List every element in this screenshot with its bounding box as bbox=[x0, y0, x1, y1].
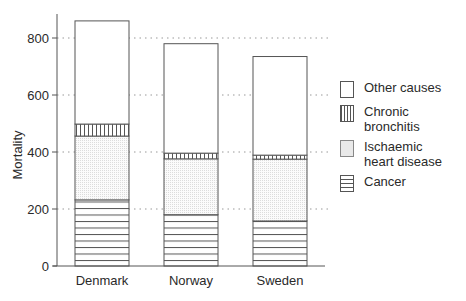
legend: Other causesChronic bronchitisIschaemic … bbox=[340, 80, 466, 198]
bar-sweden bbox=[253, 57, 307, 266]
segment-other-causes bbox=[164, 44, 218, 153]
segment-chronic-bronchitis bbox=[164, 153, 218, 159]
legend-item-ihd: Ischaemic heart disease bbox=[340, 139, 466, 169]
legend-swatch-other-icon bbox=[340, 81, 354, 98]
y-tick-label-800: 800 bbox=[27, 31, 49, 46]
segment-cancer bbox=[253, 221, 307, 266]
legend-item-cancer: Cancer bbox=[340, 174, 466, 192]
legend-item-other: Other causes bbox=[340, 80, 466, 98]
segment-chronic-bronchitis bbox=[253, 155, 307, 159]
bars bbox=[75, 21, 307, 266]
legend-label: Cancer bbox=[364, 174, 406, 189]
segment-ischaemic-heart-disease bbox=[164, 159, 218, 215]
segment-ischaemic-heart-disease bbox=[75, 136, 129, 200]
y-tick-label-0: 0 bbox=[42, 259, 49, 274]
segment-cancer bbox=[75, 200, 129, 266]
y-tick-label-200: 200 bbox=[27, 202, 49, 217]
bar-denmark bbox=[75, 21, 129, 266]
segment-other-causes bbox=[75, 21, 129, 124]
bar-norway bbox=[164, 44, 218, 266]
legend-swatch-cancer-icon bbox=[340, 175, 354, 192]
legend-label: Ischaemic heart disease bbox=[364, 139, 442, 169]
y-tick-label-400: 400 bbox=[27, 145, 49, 160]
legend-swatch-bronchitis-icon bbox=[340, 105, 354, 122]
legend-label: Other causes bbox=[364, 80, 441, 95]
segment-other-causes bbox=[253, 57, 307, 156]
legend-item-bronchitis: Chronic bronchitis bbox=[340, 104, 466, 134]
x-tick-label-norway: Norway bbox=[169, 273, 214, 288]
x-tick-label-denmark: Denmark bbox=[76, 273, 129, 288]
legend-label: Chronic bronchitis bbox=[364, 104, 420, 134]
segment-chronic-bronchitis bbox=[75, 124, 129, 136]
legend-swatch-ihd-icon bbox=[340, 140, 354, 157]
y-axis-title: Mortality bbox=[10, 130, 25, 180]
segment-cancer bbox=[164, 215, 218, 266]
segment-ischaemic-heart-disease bbox=[253, 159, 307, 221]
y-tick-label-600: 600 bbox=[27, 88, 49, 103]
x-tick-label-sweden: Sweden bbox=[257, 273, 304, 288]
